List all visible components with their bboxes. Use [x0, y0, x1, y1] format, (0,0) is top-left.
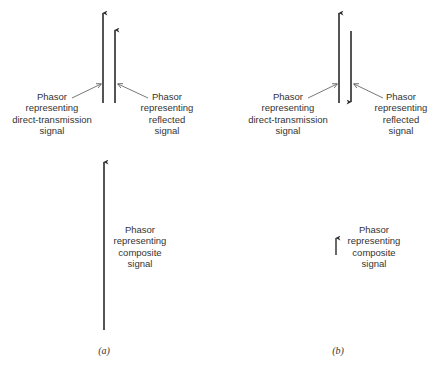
label-line: Phasor [141, 91, 194, 102]
label-line: signal [114, 258, 167, 269]
direct-phasor-label: Phasor representing direct-transmission … [248, 91, 328, 136]
label-line: representing [141, 102, 194, 113]
label-line: reflected [141, 114, 194, 125]
panel-a [72, 13, 148, 330]
composite-phasor-label: Phasor representing composite signal [114, 224, 167, 269]
label-line: composite [114, 247, 167, 258]
reflected-phasor-label: Phasor representing reflected signal [141, 91, 194, 136]
label-line: composite [348, 247, 401, 258]
label-line: direct-transmission [12, 114, 92, 125]
label-line: representing [248, 102, 328, 113]
composite-phasor-label: Phasor representing composite signal [348, 224, 401, 269]
label-line: Phasor [248, 91, 328, 102]
label-line: reflected [375, 114, 428, 125]
label-line: Phasor [114, 224, 167, 235]
label-line: representing [375, 102, 428, 113]
label-line: signal [12, 125, 92, 136]
label-line: direct-transmission [248, 114, 328, 125]
label-line: signal [375, 125, 428, 136]
label-line: representing [114, 235, 167, 246]
label-line: signal [248, 125, 328, 136]
label-line: Phasor [375, 91, 428, 102]
label-line: representing [348, 235, 401, 246]
reflected-phasor-label: Phasor representing reflected signal [375, 91, 428, 136]
panel-b-caption: (b) [332, 345, 344, 356]
direct-phasor-label: Phasor representing direct-transmission … [12, 91, 92, 136]
label-line: signal [348, 258, 401, 269]
label-line: signal [141, 125, 194, 136]
label-line: Phasor [348, 224, 401, 235]
label-line: Phasor [12, 91, 92, 102]
phasor-diagram [0, 0, 431, 366]
label-line: representing [12, 102, 92, 113]
panel-a-caption: (a) [98, 345, 110, 356]
